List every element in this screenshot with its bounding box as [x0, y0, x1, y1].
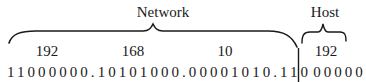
octet-2-decimal: 168	[122, 44, 145, 59]
host-label: Host	[311, 5, 339, 20]
octet-4-decimal: 192	[315, 44, 338, 59]
binary-host-bits: 00000	[311, 64, 366, 80]
network-label: Network	[137, 5, 190, 20]
octet-3-decimal: 10	[218, 44, 233, 59]
host-brace	[302, 24, 346, 43]
binary-address: 11000000.10101000.00001010.11000000	[7, 65, 366, 80]
binary-network-bits: 11000000.10101000.00001010.110	[7, 64, 311, 80]
octet-1-decimal: 192	[36, 44, 59, 59]
